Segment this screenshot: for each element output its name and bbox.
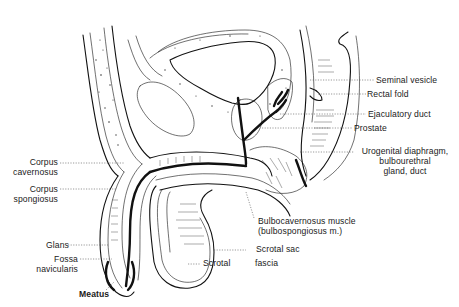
label-urogenital-line-1: Urogenital diaphragm, xyxy=(355,146,455,156)
label-corpus-spongiosum: Corpus spongiosus xyxy=(10,184,58,204)
label-fossa-navicularis: Fossa navicularis xyxy=(30,254,78,274)
label-bulbocavernosus-line-2: (bulbospongiosus m.) xyxy=(258,226,356,236)
label-fascia: fascia xyxy=(255,258,278,268)
prostate xyxy=(231,98,278,164)
label-fossa-line-1: Fossa xyxy=(30,254,78,264)
label-glans: Glans xyxy=(46,240,69,250)
label-bulbocavernosus: Bulbocavernosus muscle (bulbospongiosus … xyxy=(258,216,356,236)
label-fossa-line-2: navicularis xyxy=(30,264,78,274)
label-scrotal-sac: Scrotal sac xyxy=(256,244,300,254)
label-scrotal: Scrotal xyxy=(203,258,230,268)
label-bulbocavernosus-line-1: Bulbocavernosus muscle xyxy=(258,216,356,226)
label-corpus-cavernosum: Corpus cavernosus xyxy=(10,157,58,177)
label-prostate: Prostate xyxy=(354,123,387,133)
label-urogenital-line-3: gland, duct xyxy=(355,166,455,176)
label-corpus-cavernosum-line-2: cavernosus xyxy=(10,167,58,177)
label-corpus-spongiosum-line-1: Corpus xyxy=(10,184,58,194)
scrotum xyxy=(150,186,214,288)
label-corpus-spongiosum-line-2: spongiosus xyxy=(10,194,58,204)
label-rectal-fold: Rectal fold xyxy=(367,89,409,99)
abdominal-wall xyxy=(83,26,150,176)
label-ejaculatory-duct: Ejaculatory duct xyxy=(368,109,431,119)
label-corpus-cavernosum-line-1: Corpus xyxy=(10,157,58,167)
rectum xyxy=(300,26,360,180)
bladder xyxy=(150,30,291,113)
perineum xyxy=(250,147,307,194)
label-meatus: Meatus xyxy=(79,289,109,299)
label-seminal-vesicle: Seminal vesicle xyxy=(376,75,437,85)
label-urogenital-diaphragm: Urogenital diaphragm, bulbourethral glan… xyxy=(355,146,455,176)
anatomy-figure: Seminal vesicle Rectal fold Ejaculatory … xyxy=(0,0,459,307)
label-urogenital-line-2: bulbourethral xyxy=(355,156,455,166)
pubic-bone xyxy=(128,36,194,136)
